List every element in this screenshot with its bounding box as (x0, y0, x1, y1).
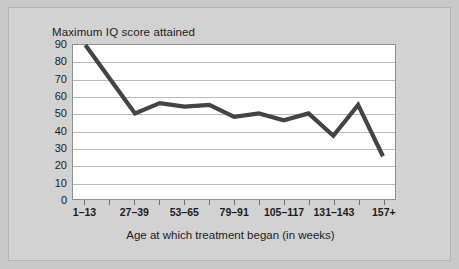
y-tick-label: 20 (55, 159, 67, 171)
x-tick-label: 1–13 (73, 206, 96, 218)
y-tick-label: 60 (55, 90, 67, 102)
x-axis-tick-labels: 1–1327–3953–6579–91105–117131–143157+ (9, 206, 452, 222)
iq-score-line-series (73, 45, 395, 199)
y-tick-label: 70 (55, 73, 67, 85)
x-axis-caption: Age at which treatment began (in weeks) (9, 229, 452, 241)
x-tick-label: 27–39 (120, 206, 149, 218)
chart-title: Maximum IQ score attained (52, 26, 195, 38)
x-tick (159, 200, 160, 205)
x-tick (84, 200, 85, 205)
y-tick-label: 40 (55, 125, 67, 137)
y-tick-label: 50 (55, 107, 67, 119)
x-tick (209, 200, 210, 205)
x-tick (184, 200, 185, 205)
x-tick (284, 200, 285, 205)
x-axis-ticks (72, 200, 396, 205)
y-tick-label: 90 (55, 38, 67, 50)
y-tick-label: 0 (61, 194, 67, 206)
plot-area (72, 44, 396, 200)
x-tick-label: 53–65 (170, 206, 199, 218)
x-tick (384, 200, 385, 205)
x-tick (259, 200, 260, 205)
x-tick-label: 79–91 (220, 206, 249, 218)
x-tick (334, 200, 335, 205)
x-tick (109, 200, 110, 205)
y-tick-label: 80 (55, 55, 67, 67)
chart-figure: Maximum IQ score attained 01020304050607… (8, 7, 451, 261)
x-tick (234, 200, 235, 205)
x-tick-label: 157+ (372, 206, 396, 218)
x-tick-label: 131–143 (314, 206, 355, 218)
y-tick-label: 30 (55, 142, 67, 154)
x-tick (134, 200, 135, 205)
x-tick (309, 200, 310, 205)
x-tick-label: 105–117 (264, 206, 304, 218)
y-axis: 0102030405060708090 (9, 8, 72, 208)
x-tick (359, 200, 360, 205)
y-tick-label: 10 (55, 177, 67, 189)
